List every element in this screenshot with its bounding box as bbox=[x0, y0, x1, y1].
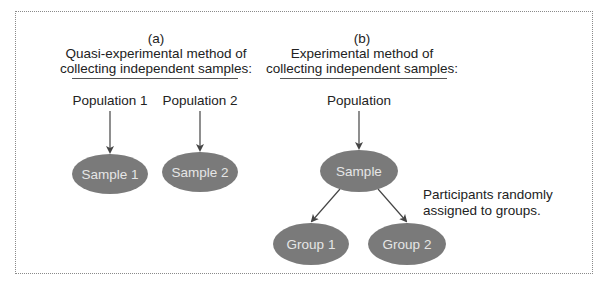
group-2-label: Group 2 bbox=[383, 237, 432, 252]
random-assignment-note-line2: assigned to groups. bbox=[423, 203, 541, 219]
sample-label: Sample bbox=[336, 164, 382, 179]
arrow-sample-group2 bbox=[378, 189, 406, 221]
arrow-sample-group1 bbox=[312, 189, 340, 221]
group-1-label: Group 1 bbox=[287, 237, 336, 252]
random-assignment-note-line1: Participants randomly bbox=[423, 187, 553, 203]
sample-1-label: Sample 1 bbox=[81, 167, 138, 182]
sample-2-label: Sample 2 bbox=[171, 165, 228, 180]
